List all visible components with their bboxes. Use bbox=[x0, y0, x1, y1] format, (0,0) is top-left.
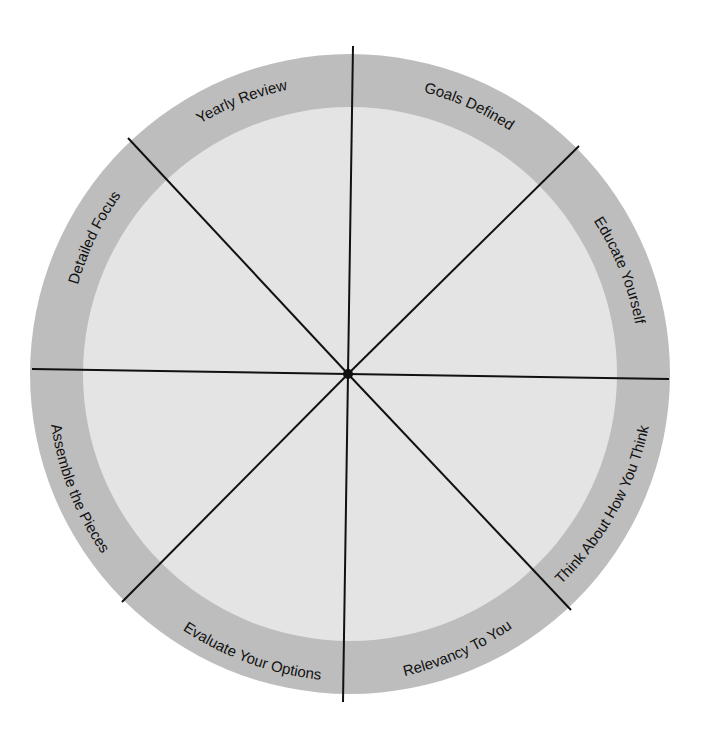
center-hub bbox=[343, 369, 353, 379]
wheel-diagram: Goals Defined Educate Yourself Think Abo… bbox=[0, 0, 702, 754]
